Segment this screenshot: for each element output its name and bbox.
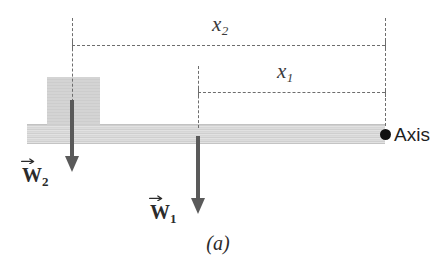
distance-label-x2: x2 [212,12,228,39]
force-label-w1-body: W [150,202,170,222]
force-symbol-w2: W [22,164,42,186]
distance-label-x1: x1 [277,59,293,86]
dimension-tick-x1-left [198,88,200,97]
axis-pivot-dot [380,129,391,140]
force-arrow-w2-shaft [70,100,74,158]
vector-arrow-icon [149,195,164,201]
dimension-line-x2 [72,45,385,46]
beam-bottom-edge [27,143,385,144]
guide-line-center-vertical [198,66,199,128]
distance-symbol-x1: x [277,59,287,83]
dimension-tick-x2-right [385,41,387,50]
dimension-tick-x2-left [72,41,74,50]
force-subscript-w1: 1 [170,211,177,226]
physics-torque-diagram: x2 x1 W2 W1 Axis (a) [0,0,436,269]
guide-line-axis-vertical [385,18,386,126]
force-label-w2: W2 [22,165,49,188]
force-arrow-w1-shaft [196,136,200,200]
force-arrow-w1-head [191,198,205,214]
vector-arrow-icon [21,158,36,164]
figure-caption: (a) [0,232,436,255]
guide-line-block-vertical [72,18,73,112]
force-arrow-w2-head [65,156,79,172]
beam [27,124,385,144]
force-label-w2-body: W [22,165,42,185]
axis-label: Axis [394,124,430,146]
dimension-tick-x1-right [385,88,387,97]
distance-subscript-x2: 2 [222,23,229,38]
distance-symbol-x2: x [212,12,222,36]
force-subscript-w2: 2 [42,174,49,189]
distance-subscript-x1: 1 [287,70,294,85]
dimension-line-x1 [198,92,385,93]
force-symbol-w1: W [150,201,170,223]
force-label-w1: W1 [150,202,177,225]
